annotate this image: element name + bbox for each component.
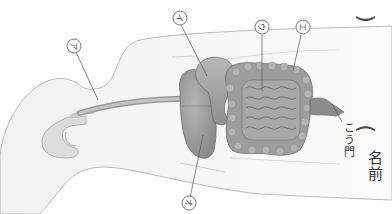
label-a: ア: [67, 39, 81, 53]
name-field-open-paren: (: [354, 124, 379, 133]
label-u: ウ: [255, 20, 269, 34]
svg-text:エ: エ: [298, 23, 307, 31]
svg-text:オ: オ: [184, 199, 193, 207]
label-o: オ: [182, 196, 196, 210]
label-e: エ: [296, 20, 310, 34]
name-field-close-paren: ): [354, 14, 379, 23]
name-field-label: 名前: [364, 150, 385, 182]
digestive-diagram: ア イ ウ エ オ こう門 名前 ( ): [0, 0, 392, 214]
label-i: イ: [173, 11, 187, 25]
svg-text:ウ: ウ: [257, 23, 266, 31]
svg-text:イ: イ: [175, 14, 184, 22]
diagram-svg: ア イ ウ エ オ: [0, 0, 392, 214]
small-intestine: [242, 80, 300, 140]
svg-text:ア: ア: [69, 42, 78, 50]
